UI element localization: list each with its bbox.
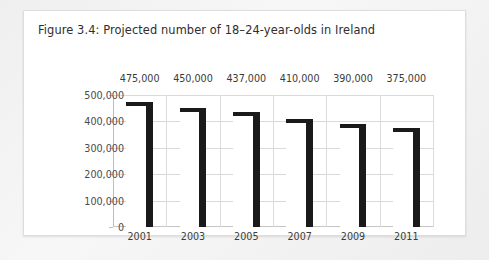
category-separator-line: [326, 95, 327, 227]
bar-face: [393, 128, 420, 227]
bar-face: [233, 112, 260, 227]
bar-value-label: 410,000: [280, 73, 320, 84]
x-axis-tick-label: 2007: [287, 231, 311, 242]
bar-face: [286, 119, 313, 227]
x-axis-tick-label: 2005: [234, 231, 258, 242]
bar-face: [340, 124, 367, 227]
plot-area: [113, 95, 433, 227]
y-tick-mark: [109, 227, 113, 228]
bar: [233, 112, 260, 227]
bar: [393, 128, 420, 227]
category-separator-line: [433, 95, 434, 227]
bar-face: [126, 102, 153, 227]
y-axis-tick-label: 400,000: [84, 116, 124, 127]
category-separator-line: [220, 95, 221, 227]
bar-value-label: 475,000: [120, 73, 160, 84]
bar: [126, 102, 153, 227]
category-separator-line: [273, 95, 274, 227]
bar-value-label: 437,000: [226, 73, 266, 84]
bar-value-label: 450,000: [173, 73, 213, 84]
x-axis-tick-label: 2009: [341, 231, 365, 242]
x-axis-tick-label: 2001: [127, 231, 151, 242]
bar: [286, 119, 313, 227]
y-axis-tick-label: 100,000: [84, 195, 124, 206]
y-axis-line: [113, 95, 114, 227]
x-axis-tick-label: 2003: [181, 231, 205, 242]
category-separator-line: [380, 95, 381, 227]
y-axis-tick-label: 200,000: [84, 169, 124, 180]
bar-chart: 0100,000200,000300,000400,000500,0002001…: [38, 53, 452, 228]
figure-card: Figure 3.4: Projected number of 18–24-ye…: [23, 10, 466, 236]
y-axis-tick-label: 500,000: [84, 90, 124, 101]
bar-value-label: 375,000: [386, 73, 426, 84]
bar-value-label: 390,000: [333, 73, 373, 84]
x-axis-tick-label: 2011: [394, 231, 418, 242]
y-axis-tick-label: 0: [118, 222, 124, 233]
bar: [180, 108, 207, 227]
bar: [340, 124, 367, 227]
y-axis-tick-label: 300,000: [84, 142, 124, 153]
figure-title: Figure 3.4: Projected number of 18–24-ye…: [38, 23, 375, 37]
category-separator-line: [166, 95, 167, 227]
bar-face: [180, 108, 207, 227]
